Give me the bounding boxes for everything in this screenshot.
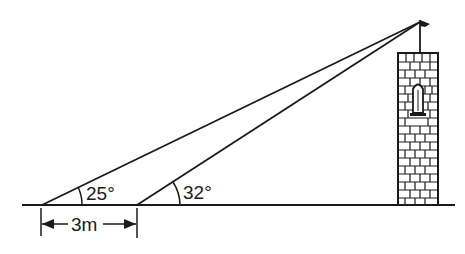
angle-label-far: 25° bbox=[86, 183, 115, 204]
angle-arc-near bbox=[173, 182, 180, 205]
distance-label: 3m bbox=[71, 214, 97, 235]
angle-arc-far bbox=[78, 187, 82, 205]
sight-line-far bbox=[42, 22, 420, 205]
angle-label-near: 32° bbox=[183, 182, 212, 203]
arrowhead-right-icon bbox=[124, 219, 136, 229]
tower bbox=[398, 53, 438, 205]
flag-icon bbox=[420, 20, 430, 27]
sight-line-near bbox=[137, 22, 420, 205]
elevation-diagram: 25° 32° 3m bbox=[0, 0, 465, 254]
tower-window bbox=[410, 85, 426, 117]
arrowhead-left-icon bbox=[42, 219, 54, 229]
